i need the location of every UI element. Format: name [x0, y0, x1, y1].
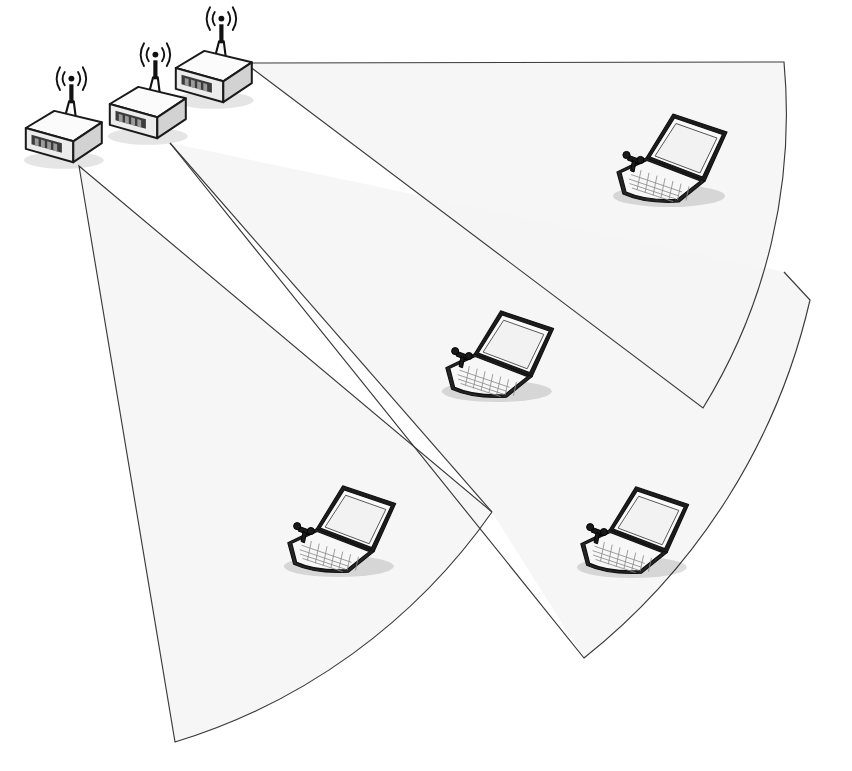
access-point-1[interactable]	[24, 67, 104, 169]
diagram-canvas	[0, 0, 852, 771]
wireless-coverage-diagram	[0, 0, 852, 771]
access-points-layer	[24, 7, 254, 169]
access-point-3[interactable]	[174, 7, 254, 109]
access-point-2[interactable]	[108, 43, 188, 145]
